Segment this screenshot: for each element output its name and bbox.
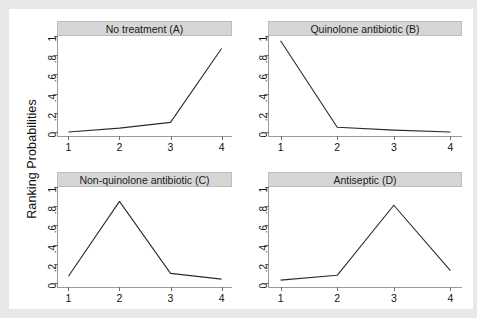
y-tick-label: .8 — [259, 55, 269, 63]
series-line-c — [58, 187, 232, 287]
x-tick-label: 3 — [391, 293, 397, 304]
x-tick-label: 2 — [117, 293, 123, 304]
y-tick-label: .6 — [48, 74, 58, 82]
y-tick-label: 1 — [48, 36, 58, 42]
panel-title-c: Non-quinolone antibiotic (C) — [57, 172, 232, 187]
x-tick-mark — [171, 287, 172, 291]
plot-area-a: 0.2.4.6.811234 — [57, 36, 232, 137]
x-tick-mark — [68, 136, 69, 140]
y-tick-label: .8 — [48, 206, 58, 214]
panel-quinolone-antibiotic: Quinolone antibiotic (B) 0.2.4.6.811234 — [268, 21, 462, 137]
panel-no-treatment: No treatment (A) 0.2.4.6.811234 — [57, 21, 232, 137]
x-tick-mark — [222, 136, 223, 140]
y-tick-label: 0 — [48, 283, 58, 289]
x-tick-label: 2 — [117, 142, 123, 153]
y-tick-label: .4 — [48, 245, 58, 253]
y-tick-label: 1 — [259, 187, 269, 193]
panel-antiseptic: Antiseptic (D) 0.2.4.6.811234 — [268, 172, 462, 288]
x-tick-label: 4 — [219, 293, 225, 304]
x-tick-label: 1 — [278, 142, 284, 153]
x-tick-label: 4 — [447, 293, 453, 304]
y-tick-label: .6 — [259, 225, 269, 233]
panel-title-b: Quinolone antibiotic (B) — [268, 21, 462, 36]
x-tick-label: 4 — [447, 142, 453, 153]
y-tick-label: 1 — [259, 36, 269, 42]
x-tick-label: 2 — [334, 293, 340, 304]
x-tick-mark — [450, 136, 451, 140]
y-tick-label: .4 — [259, 94, 269, 102]
series-line-b — [269, 36, 462, 136]
x-tick-mark — [222, 287, 223, 291]
x-tick-label: 3 — [391, 142, 397, 153]
panel-title-a: No treatment (A) — [57, 21, 232, 36]
y-tick-label: 0 — [259, 132, 269, 138]
x-tick-mark — [337, 287, 338, 291]
x-tick-mark — [337, 136, 338, 140]
x-tick-label: 3 — [168, 142, 174, 153]
y-tick-label: .4 — [48, 94, 58, 102]
x-tick-label: 2 — [334, 142, 340, 153]
x-tick-mark — [281, 136, 282, 140]
x-tick-label: 1 — [66, 142, 72, 153]
y-tick-label: .6 — [48, 225, 58, 233]
figure-canvas: Ranking Probabilities No treatment (A) 0… — [9, 9, 473, 309]
x-tick-mark — [119, 136, 120, 140]
x-tick-mark — [450, 287, 451, 291]
y-tick-label: .2 — [259, 113, 269, 121]
y-tick-label: .4 — [259, 245, 269, 253]
x-tick-mark — [394, 287, 395, 291]
y-tick-label: .2 — [48, 113, 58, 121]
x-tick-label: 1 — [278, 293, 284, 304]
x-tick-label: 1 — [66, 293, 72, 304]
panel-non-quinolone-antibiotic: Non-quinolone antibiotic (C) 0.2.4.6.811… — [57, 172, 232, 288]
x-tick-label: 3 — [168, 293, 174, 304]
series-line-d — [269, 187, 462, 287]
x-tick-label: 4 — [219, 142, 225, 153]
series-line-a — [58, 36, 232, 136]
y-tick-label: 0 — [48, 132, 58, 138]
x-tick-mark — [171, 136, 172, 140]
y-axis-title: Ranking Probabilities — [23, 9, 41, 309]
y-tick-label: .8 — [259, 206, 269, 214]
plot-area-c: 0.2.4.6.811234 — [57, 187, 232, 288]
x-tick-mark — [281, 287, 282, 291]
plot-area-d: 0.2.4.6.811234 — [268, 187, 462, 288]
y-tick-label: .8 — [48, 55, 58, 63]
y-tick-label: 1 — [48, 187, 58, 193]
x-tick-mark — [394, 136, 395, 140]
y-tick-label: 0 — [259, 283, 269, 289]
panel-title-d: Antiseptic (D) — [268, 172, 462, 187]
x-tick-mark — [68, 287, 69, 291]
y-tick-label: .2 — [48, 264, 58, 272]
plot-area-b: 0.2.4.6.811234 — [268, 36, 462, 137]
y-tick-label: .2 — [259, 264, 269, 272]
y-tick-label: .6 — [259, 74, 269, 82]
x-tick-mark — [119, 287, 120, 291]
